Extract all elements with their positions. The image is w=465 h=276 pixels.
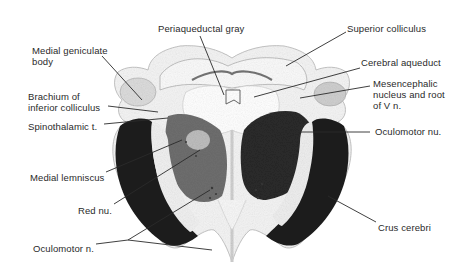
label-mesencephalic-nucleus: Mesencephalic nucleus and root of V n.: [373, 78, 445, 111]
leader-crus-cerebri: [328, 196, 376, 222]
label-spinothalamic-tract: Spinothalamic t.: [28, 121, 97, 132]
label-superior-colliculus: Superior colliculus: [347, 23, 426, 34]
label-red-nucleus: Red nu.: [78, 205, 112, 216]
red-nucleus-region: [186, 130, 210, 150]
label-oculomotor-nucleus: Oculomotor nu.: [375, 126, 441, 137]
leader-oculomotor-n-a: [96, 240, 128, 244]
label-medial-geniculate-body: Medial geniculate body: [32, 45, 108, 67]
label-cerebral-aqueduct: Cerebral aqueduct: [361, 57, 441, 68]
label-brachium-inferior-colliculus: Brachium of inferior colliculus: [28, 91, 100, 113]
midbrain-section-figure: [0, 0, 465, 276]
label-oculomotor-nerve: Oculomotor n.: [33, 243, 94, 254]
label-medial-lemniscus: Medial lemniscus: [30, 172, 104, 183]
label-crus-cerebri: Crus cerebri: [378, 222, 431, 233]
label-periaqueductal-gray: Periaqueductal gray: [158, 23, 244, 34]
